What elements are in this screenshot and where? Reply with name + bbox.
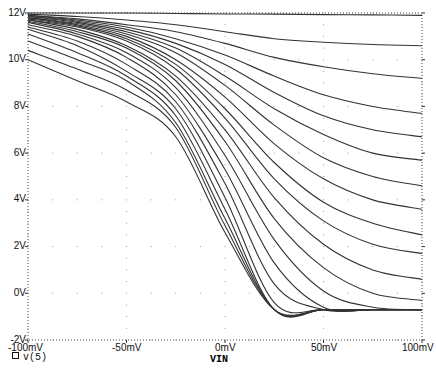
y-tick-0v: 0V (0, 287, 26, 298)
legend: v(5) (12, 352, 47, 363)
legend-label: v(5) (23, 352, 47, 363)
y-tick-2v: 2V (0, 240, 26, 251)
y-tick-4v: 4V (0, 193, 26, 204)
x-tick-50: 50mV (311, 342, 337, 353)
series-line (28, 60, 422, 316)
series-line (28, 41, 422, 316)
y-tick-6v: 6V (0, 147, 26, 158)
x-tick-0: 0mV (215, 342, 236, 353)
y-tick-8v: 8V (0, 100, 26, 111)
plot-area (0, 0, 436, 372)
series-line (28, 25, 422, 312)
x-tick-100: 100mV (402, 342, 434, 353)
legend-square-marker-icon (12, 352, 19, 359)
x-tick-neg50: -50mV (112, 342, 141, 353)
x-axis-label: VIN (210, 354, 228, 365)
y-tick-10v: 10V (0, 53, 26, 64)
series-line (28, 18, 422, 210)
series-line (28, 14, 422, 46)
y-tick-12v: 12V (0, 7, 26, 18)
series-line (28, 17, 422, 161)
series-line (28, 19, 422, 235)
